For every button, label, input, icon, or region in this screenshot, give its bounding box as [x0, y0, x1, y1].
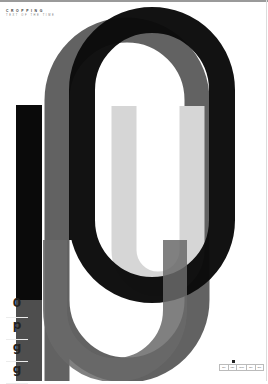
glyph-samples: 0 p g g — [6, 296, 28, 384]
footer-marker — [232, 360, 235, 363]
footer-cell: 030 — [229, 365, 238, 370]
glyph-sample: g — [6, 340, 28, 362]
glyph-sample: 0 — [6, 296, 28, 318]
footer-cell: 200 — [256, 365, 264, 370]
glyph-sample: g — [6, 362, 28, 384]
footer-cell: 110 — [247, 365, 256, 370]
footer-cell: 110 — [220, 365, 229, 370]
footer-cell: 0010 — [237, 365, 247, 370]
footer-info-table: 110 030 0010 110 200 — [219, 364, 264, 371]
glyph-sample: p — [6, 318, 28, 340]
